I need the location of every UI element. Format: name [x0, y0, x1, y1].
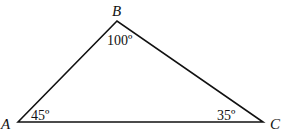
vertex-label-c: C — [270, 116, 281, 132]
angle-label-c: 35º — [217, 108, 236, 123]
angle-label-b: 100º — [107, 33, 133, 48]
triangle-abc — [18, 21, 263, 122]
triangle-diagram: A B C 45º 100º 35º — [0, 0, 282, 134]
vertex-label-a: A — [0, 116, 11, 132]
angle-label-a: 45º — [31, 108, 50, 123]
vertex-label-b: B — [112, 3, 121, 19]
